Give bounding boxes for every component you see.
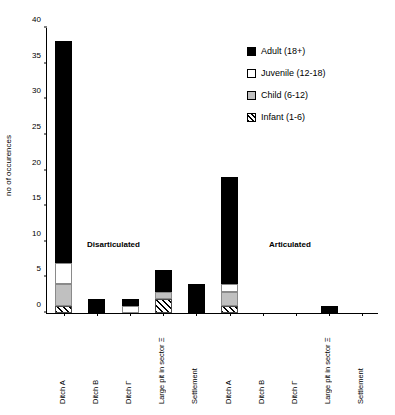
bar-segment-adult [155, 270, 172, 291]
legend-item-infant: Infant (1-6) [247, 106, 387, 128]
y-tick-40: 40 [32, 16, 47, 24]
bar-8 [321, 306, 338, 313]
bar-3 [155, 270, 172, 313]
child-swatch-icon [247, 91, 256, 100]
x-axis-label: Large pit in sector Ξ [324, 318, 332, 404]
y-tick-25: 25 [32, 123, 47, 131]
legend-item-child: Child (6-12) [247, 84, 387, 106]
bar-segment-child [55, 284, 72, 305]
bar-segment-child [221, 292, 238, 306]
adult-swatch-icon [247, 47, 256, 56]
bar-segment-infant [55, 306, 72, 313]
legend-label-juvenile: Juvenile (12-18) [261, 68, 326, 78]
x-tick-5 [230, 313, 231, 316]
x-axis-label: Settlement [191, 318, 199, 404]
x-axis-label: Ditch Γ [125, 318, 133, 404]
bar-segment-adult [221, 177, 238, 284]
x-axis-label: Ditch B [92, 318, 100, 404]
bar-segment-adult [188, 284, 205, 313]
y-axis-title: no of occurences [4, 135, 14, 196]
x-tick-6 [263, 313, 264, 316]
x-axis-label: Ditch A [59, 318, 67, 404]
bar-segment-juvenile [55, 263, 72, 284]
bar-segment-juvenile [221, 284, 238, 291]
x-axis-label: Ditch Γ [291, 318, 299, 404]
y-tick-0: 0 [37, 301, 47, 309]
x-tick-7 [296, 313, 297, 316]
y-tick-30: 30 [32, 87, 47, 95]
infant-swatch-icon [247, 113, 256, 122]
y-tick-35: 35 [32, 52, 47, 60]
legend-item-adult: Adult (18+) [247, 40, 387, 62]
x-tick-1 [97, 313, 98, 316]
x-tick-0 [64, 313, 65, 316]
x-tick-8 [329, 313, 330, 316]
bar-4 [188, 284, 205, 313]
bar-segment-infant [155, 299, 172, 313]
bar-chart: no of occurences 0 5 10 15 20 25 30 35 4… [0, 0, 395, 415]
bar-2 [122, 299, 139, 313]
bar-segment-adult [321, 306, 338, 313]
x-tick-2 [130, 313, 131, 316]
x-axis-label: Settlement [357, 318, 365, 404]
bar-segment-child [155, 292, 172, 299]
x-axis-label: Ditch B [258, 318, 266, 404]
y-tick-15: 15 [32, 194, 47, 202]
bar-segment-infant [221, 306, 238, 313]
y-tick-5: 5 [37, 265, 47, 273]
legend: Adult (18+) Juvenile (12-18) Child (6-12… [247, 40, 387, 128]
x-tick-3 [163, 313, 164, 316]
legend-label-infant: Infant (1-6) [261, 112, 305, 122]
bar-segment-juvenile [122, 306, 139, 313]
legend-item-juvenile: Juvenile (12-18) [247, 62, 387, 84]
x-axis-label: Ditch A [225, 318, 233, 404]
x-tick-4 [196, 313, 197, 316]
x-axis-label: Large pit in sector Ξ [158, 318, 166, 404]
bar-5 [221, 177, 238, 313]
bar-segment-adult [88, 299, 105, 313]
x-axis-labels: Ditch ADitch BDitch ΓLarge pit in sector… [46, 318, 378, 408]
bar-0 [55, 41, 72, 313]
legend-label-adult: Adult (18+) [261, 46, 305, 56]
y-tick-20: 20 [32, 159, 47, 167]
y-tick-10: 10 [32, 230, 47, 238]
x-tick-9 [362, 313, 363, 316]
juvenile-swatch-icon [247, 69, 256, 78]
bar-segment-adult [122, 299, 139, 306]
bar-1 [88, 299, 105, 313]
bar-segment-adult [55, 41, 72, 263]
legend-label-child: Child (6-12) [261, 90, 308, 100]
